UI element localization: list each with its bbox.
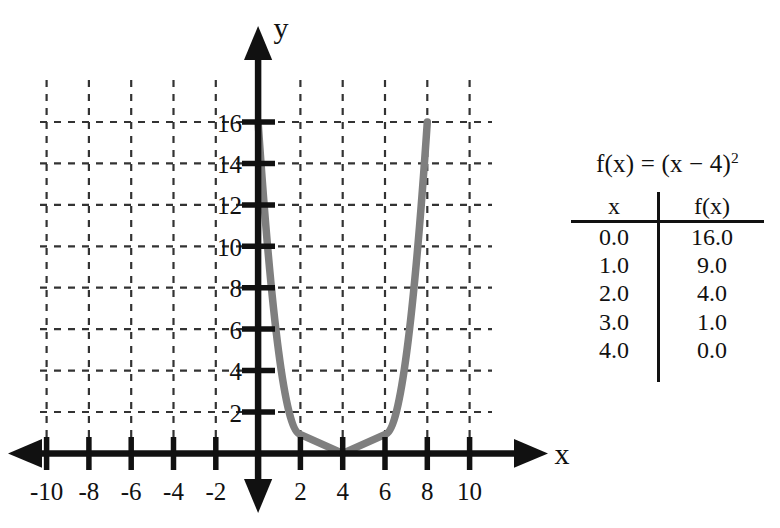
table-rule-tail-row	[571, 364, 764, 382]
x-tick-label: 4	[336, 478, 349, 505]
function-value-table: x f(x) 0.0 16.0 1.0 9.0	[571, 192, 764, 383]
cell-x: 1.0	[571, 251, 657, 279]
table-header-row: x f(x)	[571, 192, 764, 220]
cell-fx: 4.0	[660, 279, 764, 307]
table-row: 0.0 16.0	[571, 223, 764, 251]
x-tick-label: 8	[421, 478, 434, 505]
x-tick-label: -8	[78, 478, 99, 505]
function-expression-base: f(x) = (x − 4)	[596, 150, 731, 177]
x-tick-label: 10	[457, 478, 482, 505]
y-tick-label: 10	[217, 234, 242, 261]
cell-fx: 16.0	[660, 223, 764, 251]
cell-x: 0.0	[571, 223, 657, 251]
cell-fx: 0.0	[660, 336, 764, 364]
y-tick-label: 4	[230, 358, 243, 385]
x-tick-label: 2	[294, 478, 307, 505]
x-axis-right-arrowhead	[514, 439, 548, 468]
cartesian-plane: -10 -8 -6 -4 -2 2 4 6 8 10 16 14 12 10 8…	[0, 0, 575, 528]
table-row: 4.0 0.0	[571, 336, 764, 364]
table-tail-right	[660, 364, 764, 382]
figure-root: -10 -8 -6 -4 -2 2 4 6 8 10 16 14 12 10 8…	[0, 0, 780, 528]
x-tick-label: -4	[163, 478, 184, 505]
x-axis-label: x	[555, 437, 570, 470]
cell-fx: 1.0	[660, 308, 764, 336]
function-expression-exponent: 2	[731, 149, 739, 166]
y-axis-bottom-arrowhead	[244, 479, 272, 513]
y-tick-label: 14	[217, 151, 243, 178]
graph-panel: -10 -8 -6 -4 -2 2 4 6 8 10 16 14 12 10 8…	[0, 0, 575, 528]
function-table-panel: f(x) = (x − 4)2 x f(x) 0.0 16.0	[560, 150, 775, 382]
y-axis-label: y	[274, 11, 289, 44]
table-row: 3.0 1.0	[571, 308, 764, 336]
x-tick-label: -2	[205, 478, 226, 505]
cell-x: 3.0	[571, 308, 657, 336]
cell-x: 4.0	[571, 336, 657, 364]
x-tick-label: -6	[121, 478, 142, 505]
cell-fx: 9.0	[660, 251, 764, 279]
column-header-fx: f(x)	[660, 192, 764, 220]
table-tail-left	[571, 364, 657, 382]
function-expression-title: f(x) = (x − 4)2	[560, 150, 775, 178]
table-row: 1.0 9.0	[571, 251, 764, 279]
y-tick-labels: 16 14 12 10 8 6 4 2	[217, 110, 243, 427]
y-tick-label: 2	[230, 400, 243, 427]
y-tick-label: 8	[230, 275, 243, 302]
column-header-x: x	[571, 192, 657, 220]
y-tick-label: 16	[217, 110, 242, 137]
y-tick-label: 6	[230, 317, 243, 344]
x-axis-left-arrowhead	[8, 439, 42, 468]
y-axis-top-arrowhead	[244, 26, 272, 60]
table-row: 2.0 4.0	[571, 279, 764, 307]
x-tick-label: 6	[379, 478, 392, 505]
cell-x: 2.0	[571, 279, 657, 307]
y-tick-label: 12	[217, 192, 242, 219]
x-tick-label: -10	[30, 478, 63, 505]
